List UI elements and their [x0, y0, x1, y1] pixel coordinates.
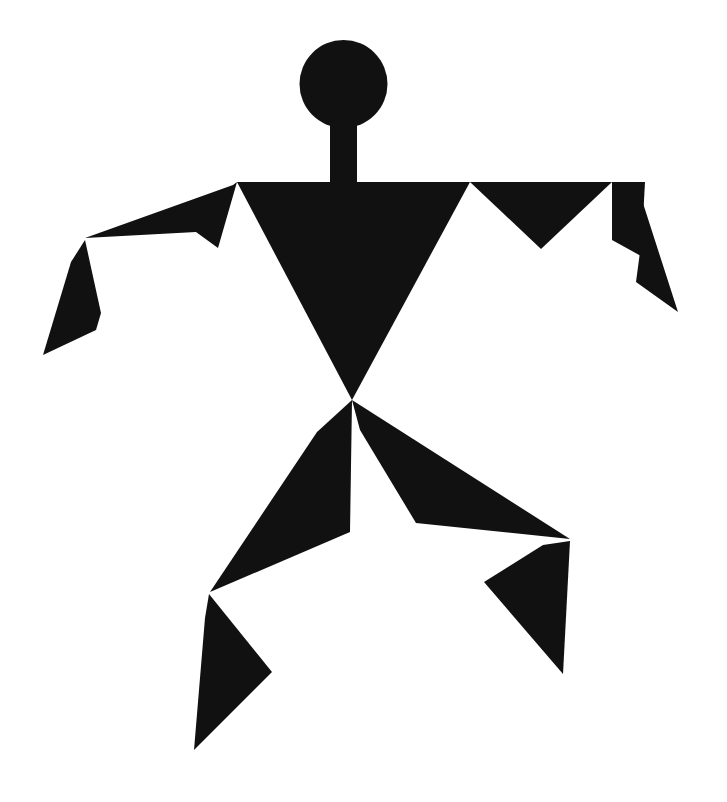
neck-shape — [330, 122, 357, 184]
head-shape — [300, 40, 388, 128]
angular-figure-illustration — [0, 0, 727, 802]
artboard — [0, 0, 727, 802]
